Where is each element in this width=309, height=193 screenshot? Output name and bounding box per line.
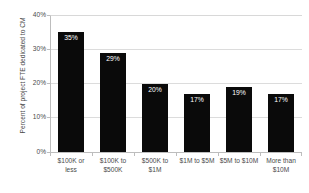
bar-value-label: 35%	[64, 35, 78, 42]
bar-value-label: 20%	[148, 87, 162, 94]
bar-chart: Percent of project FTE dedicated to CM 4…	[0, 0, 309, 193]
x-label-more-than-10m: More than $10M	[260, 156, 302, 174]
bar-100k-to-500k[interactable]: 29%	[100, 53, 125, 152]
bar-slot: 19%	[218, 15, 260, 152]
x-axis-labels: $100K or less $100K to $500K $500K to $1…	[50, 156, 302, 174]
bar-more-than-10m[interactable]: 17%	[268, 94, 293, 152]
bar-1m-to-5m[interactable]: 17%	[184, 94, 209, 152]
bar-5m-to-10m[interactable]: 19%	[226, 87, 251, 152]
bar-value-label: 17%	[190, 97, 204, 104]
x-label-500k-to-1m: $500K to $1M	[134, 156, 176, 174]
bar-value-label: 29%	[106, 56, 120, 63]
y-tick-label-0: 0%	[22, 148, 46, 155]
x-label-1m-to-5m: $1M to $5M	[176, 156, 218, 174]
bar-value-label: 17%	[274, 97, 288, 104]
y-tick-label-30: 30%	[22, 45, 46, 52]
y-tick-label-10: 10%	[22, 113, 46, 120]
x-label-100k-to-500k: $100K to $500K	[92, 156, 134, 174]
y-tick-label-40: 40%	[22, 11, 46, 18]
bar-slot: 35%	[50, 15, 92, 152]
bar-slot: 20%	[134, 15, 176, 152]
bar-series: 35% 29% 20% 17% 19% 17%	[50, 15, 302, 152]
x-label-100k-or-less: $100K or less	[50, 156, 92, 174]
x-label-5m-to-10m: $5M to $10M	[218, 156, 260, 174]
bar-500k-to-1m[interactable]: 20%	[142, 84, 167, 153]
y-tick-label-20: 20%	[22, 79, 46, 86]
bar-value-label: 19%	[232, 90, 246, 97]
bar-100k-or-less[interactable]: 35%	[58, 32, 83, 152]
bar-slot: 17%	[260, 15, 302, 152]
y-axis-title: Percent of project FTE dedicated to CM	[19, 6, 26, 146]
bar-slot: 29%	[92, 15, 134, 152]
bar-slot: 17%	[176, 15, 218, 152]
